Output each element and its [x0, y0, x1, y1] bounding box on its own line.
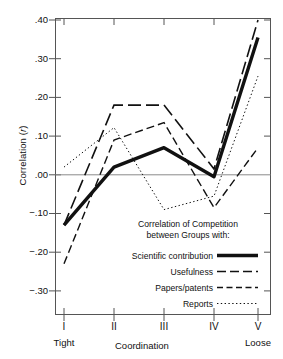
- legend-label-usefulness: Usefulness: [83, 267, 213, 277]
- x-tick-label-3: IV: [199, 321, 229, 332]
- series-line-usefulness: [64, 20, 258, 225]
- x-axis-end-label-loose: Loose: [238, 337, 278, 348]
- legend-label-reports: Reports: [83, 299, 213, 309]
- legend-title-line-2: between Groups with:: [108, 230, 268, 241]
- x-axis-title: Coordination: [115, 340, 169, 351]
- legend-swatches: [217, 256, 258, 304]
- legend-label-papers-patents: Papers/patents: [83, 283, 213, 293]
- series-line-scientific-contribution: [64, 37, 258, 225]
- x-tick-label-4: V: [243, 321, 273, 332]
- legend-title-line-1: Correlation of Competition: [108, 219, 268, 230]
- figure-chart-correlation: Correlation (r) .40 .30 .20 .10 .00 −.10…: [0, 0, 283, 359]
- x-tick-label-1: II: [99, 321, 129, 332]
- x-axis-end-label-tight: Tight: [44, 337, 84, 348]
- x-tick-label-2: III: [149, 321, 179, 332]
- legend-title: Correlation of Competition between Group…: [108, 219, 268, 241]
- legend-label-scientific-contribution: Scientific contribution: [83, 251, 213, 261]
- x-tick-label-0: I: [49, 321, 79, 332]
